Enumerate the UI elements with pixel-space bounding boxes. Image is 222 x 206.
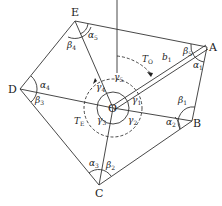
edge-d-e xyxy=(20,21,75,89)
label-b1: b1 xyxy=(162,52,172,63)
label-alpha3: α3 xyxy=(89,158,99,169)
label-to: TO xyxy=(142,54,153,65)
label-gamma3: γ3 xyxy=(97,115,106,126)
vertex-label-e: E xyxy=(71,6,79,19)
label-beta4: β4 xyxy=(66,40,76,51)
edge-b-c xyxy=(99,121,192,185)
label-alpha2: α2 xyxy=(166,117,176,128)
label-alpha4: α4 xyxy=(40,80,50,91)
traverse-diagram: E A B C D O α5 β4 β5 α1 β1 α2 α3 β2 α4 β… xyxy=(0,0,222,206)
label-beta1: β1 xyxy=(177,95,187,106)
label-te: TE xyxy=(74,116,84,127)
arc-c xyxy=(89,169,111,176)
label-gamma2: γ2 xyxy=(128,115,137,126)
label-alpha5: α5 xyxy=(88,30,98,41)
label-beta3: β3 xyxy=(34,95,44,106)
vertex-label-c: C xyxy=(95,187,103,200)
vertex-label-a: A xyxy=(208,41,218,54)
vertex-label-o: O xyxy=(108,102,117,115)
label-beta2: β2 xyxy=(105,160,115,171)
edge-c-d xyxy=(20,89,99,185)
label-gamma5: γ5 xyxy=(114,72,123,83)
label-gamma4: γ4 xyxy=(96,82,105,93)
vertex-label-d: D xyxy=(8,83,17,96)
arc-e-inner xyxy=(80,24,88,34)
arrow-head-to xyxy=(147,72,153,77)
vertex-label-b: B xyxy=(193,117,201,130)
